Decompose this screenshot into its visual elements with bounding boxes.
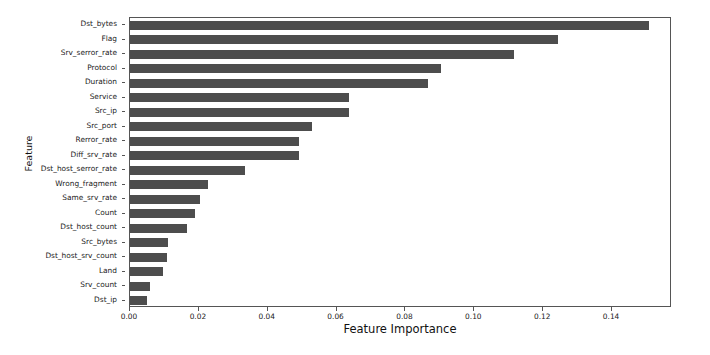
bar-row <box>130 180 670 189</box>
bar-row <box>130 209 670 218</box>
x-tick-label: 0.04 <box>259 312 275 321</box>
y-axis-title: Feature <box>23 114 34 194</box>
x-tick-label: 0.12 <box>534 312 550 321</box>
y-tick-label: Count <box>95 209 117 217</box>
bar-row <box>130 122 670 131</box>
y-tick-label: Src_ip <box>95 107 117 115</box>
x-tick-mark <box>336 307 337 311</box>
bar-row <box>130 79 670 88</box>
y-tick-mark <box>122 140 126 141</box>
y-tick-label: Duration <box>85 78 117 86</box>
x-tick-label: 0.10 <box>465 312 481 321</box>
y-tick-label: Dst_bytes <box>81 20 118 28</box>
bar <box>130 21 649 30</box>
bar <box>130 224 187 233</box>
x-tick-mark <box>473 307 474 311</box>
y-tick-label: Dst_host_serror_rate <box>41 165 117 173</box>
x-tick-mark <box>198 307 199 311</box>
y-tick-label: Protocol <box>87 64 117 72</box>
x-tick-mark <box>129 307 130 311</box>
bar <box>130 93 349 102</box>
x-tick-mark <box>267 307 268 311</box>
x-tick-label: 0.14 <box>603 312 619 321</box>
y-tick-mark <box>122 169 126 170</box>
bar <box>130 79 428 88</box>
bar <box>130 166 245 175</box>
x-tick-mark <box>404 307 405 311</box>
y-tick-label: Flag <box>101 35 117 43</box>
bar <box>130 180 208 189</box>
y-tick-mark <box>122 97 126 98</box>
x-tick-label: 0.02 <box>190 312 206 321</box>
y-tick-mark <box>122 271 126 272</box>
y-tick-mark <box>122 198 126 199</box>
y-tick-mark <box>122 227 126 228</box>
y-tick-mark <box>122 53 126 54</box>
y-tick-mark <box>122 300 126 301</box>
bar <box>130 50 514 59</box>
bar-row <box>130 267 670 276</box>
y-tick-mark <box>122 68 126 69</box>
y-tick-mark <box>122 184 126 185</box>
bar <box>130 151 299 160</box>
x-tick-label: 0.00 <box>121 312 137 321</box>
x-tick-label: 0.06 <box>327 312 343 321</box>
y-tick-mark <box>122 155 126 156</box>
y-tick-mark <box>122 242 126 243</box>
x-axis-title: Feature Importance <box>129 322 671 336</box>
bar <box>130 253 167 262</box>
y-tick-label: Src_port <box>87 122 117 130</box>
x-tick-mark <box>611 307 612 311</box>
bar <box>130 267 163 276</box>
bar <box>130 195 200 204</box>
y-tick-label: Service <box>90 93 117 101</box>
bar-row <box>130 50 670 59</box>
bar-row <box>130 296 670 305</box>
bar-row <box>130 166 670 175</box>
y-tick-mark <box>122 82 126 83</box>
bar-row <box>130 108 670 117</box>
y-tick-mark <box>122 111 126 112</box>
bar-row <box>130 253 670 262</box>
y-tick-label: Dst_host_count <box>60 223 117 231</box>
y-tick-label: Land <box>99 267 117 275</box>
y-tick-label: Same_srv_rate <box>62 194 117 202</box>
y-tick-label: Rerror_rate <box>76 136 117 144</box>
bar-row <box>130 21 670 30</box>
bar-row <box>130 64 670 73</box>
bar-row <box>130 282 670 291</box>
plot-area <box>129 17 671 307</box>
bar <box>130 137 299 146</box>
y-tick-mark <box>122 39 126 40</box>
bar-row <box>130 93 670 102</box>
y-tick-mark <box>122 285 126 286</box>
bar-row <box>130 238 670 247</box>
y-axis-tick-labels: Dst_bytesFlagSrv_serror_rateProtocolDura… <box>0 17 125 307</box>
bar <box>130 282 150 291</box>
y-tick-label: Diff_srv_rate <box>70 151 117 159</box>
bar-row <box>130 195 670 204</box>
bar <box>130 209 195 218</box>
bar <box>130 122 312 131</box>
y-tick-label: Src_bytes <box>81 238 117 246</box>
bar <box>130 64 441 73</box>
y-tick-label: Dst_ip <box>94 296 117 304</box>
bar <box>130 108 349 117</box>
bars-layer <box>130 18 670 306</box>
y-tick-mark <box>122 24 126 25</box>
bar <box>130 238 168 247</box>
y-tick-mark <box>122 126 126 127</box>
y-tick-label: Srv_serror_rate <box>61 49 117 57</box>
bar <box>130 296 147 305</box>
y-tick-label: Srv_count <box>80 281 117 289</box>
x-tick-label: 0.08 <box>396 312 412 321</box>
y-tick-label: Dst_host_srv_count <box>45 252 117 260</box>
bar <box>130 35 558 44</box>
bar-row <box>130 224 670 233</box>
y-tick-mark <box>122 213 126 214</box>
bar-row <box>130 151 670 160</box>
y-tick-label: Wrong_fragment <box>55 180 117 188</box>
bar-row <box>130 35 670 44</box>
figure-canvas: Dst_bytesFlagSrv_serror_rateProtocolDura… <box>0 0 710 355</box>
y-tick-mark <box>122 256 126 257</box>
